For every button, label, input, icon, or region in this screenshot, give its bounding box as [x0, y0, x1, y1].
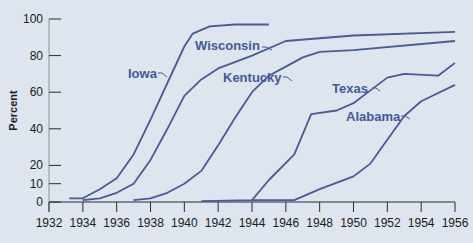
- y-tick-label: 0: [36, 195, 43, 209]
- series-label-wisconsin: Wisconsin: [195, 38, 260, 53]
- y-tick-label: 100: [23, 12, 43, 26]
- x-tick-label: 1940: [171, 216, 198, 230]
- x-tick-label: 1934: [69, 216, 96, 230]
- series-label-texas: Texas: [332, 81, 368, 96]
- y-tick-label: 10: [30, 177, 44, 191]
- x-tick-label: 1944: [239, 216, 266, 230]
- series-label-alabama: Alabama: [346, 109, 401, 124]
- y-tick-label: 60: [30, 85, 44, 99]
- series-labels: IowaWisconsinKentuckyTexasAlabama: [128, 38, 410, 124]
- x-tick-label: 1956: [442, 216, 469, 230]
- series-line-kentucky: [134, 41, 455, 200]
- x-tick-label: 1950: [340, 216, 367, 230]
- y-tick-label: 20: [30, 158, 44, 172]
- x-tick-label: 1936: [103, 216, 130, 230]
- label-leader: [372, 88, 380, 91]
- y-axis-title: Percent: [7, 90, 19, 131]
- series-label-iowa: Iowa: [128, 66, 158, 81]
- label-leader: [283, 77, 292, 81]
- x-tick-label: 1954: [408, 216, 435, 230]
- line-chart: 1932193419361938194019421944194619481950…: [0, 0, 473, 243]
- y-tick-label: 40: [30, 122, 44, 136]
- series-label-kentucky: Kentucky: [223, 70, 282, 85]
- x-tick-label: 1952: [374, 216, 401, 230]
- x-tick-label: 1938: [137, 216, 164, 230]
- x-tick-label: 1942: [205, 216, 232, 230]
- x-tick-label: 1946: [272, 216, 299, 230]
- label-leader: [158, 73, 167, 77]
- y-tick-label: 80: [30, 49, 44, 63]
- x-tick-label: 1932: [36, 216, 63, 230]
- x-tick-label: 1948: [306, 216, 333, 230]
